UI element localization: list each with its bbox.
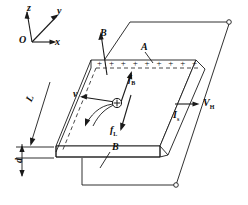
surface-charge-plus: + bbox=[156, 59, 161, 68]
slab-right-lower-slant bbox=[160, 155, 168, 157]
axis-label-z: z bbox=[27, 3, 31, 13]
surface-charge-plus: + bbox=[109, 59, 114, 68]
axis-label-x: x bbox=[55, 37, 60, 47]
dimension-length-arrowheads bbox=[30, 138, 35, 147]
label-magnetic-field-bottom: B bbox=[112, 142, 119, 152]
surface-charge-plus: + bbox=[133, 59, 138, 68]
dimension-d-arrowhead-bottom bbox=[19, 170, 24, 177]
label-current: Is bbox=[173, 110, 179, 122]
dimension-length bbox=[31, 82, 50, 143]
terminal-bottom-right[interactable] bbox=[174, 183, 179, 188]
label-force-lorentz: fL bbox=[110, 125, 117, 137]
label-current-subscript: s bbox=[177, 116, 179, 122]
label-force-lorentz-subscript: L bbox=[113, 131, 117, 137]
surface-charge-plus: + bbox=[145, 59, 150, 68]
hall-effect-figure: +++++++++ z y x O B A B fB fL v Is VH L … bbox=[0, 0, 248, 205]
label-force-magnetic-subscript: B bbox=[131, 80, 135, 86]
dimension-L-line bbox=[31, 82, 50, 143]
label-magnetic-field-top: B bbox=[100, 28, 107, 38]
surface-charge-plus: + bbox=[121, 59, 126, 68]
dimension-d-arrowhead-top bbox=[19, 145, 24, 152]
surface-charge-plus: + bbox=[192, 59, 197, 68]
label-force-magnetic: fB bbox=[128, 74, 135, 86]
surface-charge-plus: + bbox=[97, 59, 102, 68]
label-hall-voltage-subscript: H bbox=[210, 104, 215, 110]
terminal-top-right[interactable] bbox=[227, 20, 232, 25]
label-thickness: d bbox=[14, 158, 24, 163]
surface-charge-plus: + bbox=[168, 59, 173, 68]
circuit-wire-top-left bbox=[103, 22, 130, 62]
surface-charge-plus: + bbox=[180, 59, 185, 68]
axis-label-y: y bbox=[57, 6, 61, 16]
current-arrowhead bbox=[193, 101, 200, 106]
label-velocity: v bbox=[73, 89, 77, 99]
charge-carrier bbox=[112, 98, 121, 107]
axis-label-origin: O bbox=[19, 35, 26, 45]
dimension-L-arrowhead-bottom bbox=[30, 138, 35, 147]
label-hall-voltage: VH bbox=[203, 98, 214, 110]
label-surface-a: A bbox=[141, 42, 148, 52]
label-hall-voltage-main: V bbox=[203, 97, 210, 108]
